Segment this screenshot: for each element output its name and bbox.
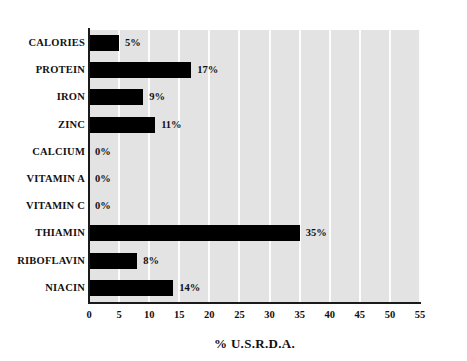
category-label: CALORIES [0,37,85,49]
category-label: VITAMIN A [0,173,85,185]
category-label: IRON [0,91,85,103]
bar [89,225,300,241]
category-label: PROTEIN [0,64,85,76]
bar-value-label: 17% [197,62,218,78]
category-axis: CALORIESPROTEINIRONZINCCALCIUMVITAMIN AV… [0,30,85,302]
bar-row: 0% [89,193,420,220]
bar-row: 35% [89,220,420,247]
x-tick-label: 55 [400,308,440,322]
category-label: ZINC [0,119,85,131]
bar-value-label: 5% [125,35,141,51]
bar [89,253,137,269]
bar [89,62,191,78]
bar-value-label: 9% [149,89,165,105]
category-label: VITAMIN C [0,200,85,212]
bar [89,280,173,296]
plot-area: 5%17%9%11%0%0%0%35%8%14% [89,30,420,302]
bar-value-label: 14% [179,280,200,296]
bar-row: 11% [89,112,420,139]
bar [89,117,155,133]
bar-chart: CALORIESPROTEINIRONZINCCALCIUMVITAMIN AV… [0,0,467,361]
bar-value-label: 0% [95,198,111,214]
x-axis-title: % U.S.R.D.A. [89,336,420,352]
bar-row: 0% [89,139,420,166]
bar-row: 17% [89,57,420,84]
category-label: CALCIUM [0,146,85,158]
bar-value-label: 8% [143,253,159,269]
bar-value-label: 0% [95,171,111,187]
bar-row: 8% [89,248,420,275]
y-axis-line [88,28,90,304]
bar-value-label: 35% [306,225,327,241]
category-label: NIACIN [0,282,85,294]
category-label: RIBOFLAVIN [0,255,85,267]
bar-row: 5% [89,30,420,57]
bar-row: 0% [89,166,420,193]
bar [89,35,119,51]
bar-value-label: 11% [161,117,181,133]
bar-row: 9% [89,84,420,111]
x-axis-line [88,302,421,304]
bar-value-label: 0% [95,144,111,160]
category-label: THIAMIN [0,227,85,239]
bar [89,89,143,105]
bar-row: 14% [89,275,420,302]
x-axis-tick-labels: 0510152025303540455055 [0,308,467,324]
